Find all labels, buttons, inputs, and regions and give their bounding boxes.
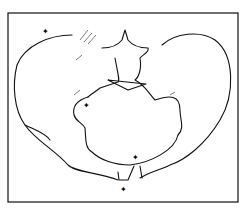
marker-sacroiliac: ✦ <box>83 101 90 110</box>
marker-iliac-crest: ✦ <box>42 27 49 36</box>
marker-pubic-top: ✦ <box>132 153 139 162</box>
marker-pubic-bottom: ✦ <box>120 185 127 194</box>
pelvis-figure: ✦ ✦ ✦ ✦ <box>0 0 247 209</box>
